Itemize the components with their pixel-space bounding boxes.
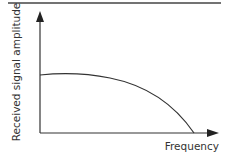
x-axis-label: Frequency [165, 140, 219, 152]
response-curve [40, 74, 194, 133]
y-axis-label: Received signal amplitude [10, 3, 22, 142]
y-axis-arrow-icon [36, 11, 44, 22]
chart: Received signal amplitude Frequency [0, 0, 232, 157]
x-axis-arrow-icon [207, 129, 219, 137]
